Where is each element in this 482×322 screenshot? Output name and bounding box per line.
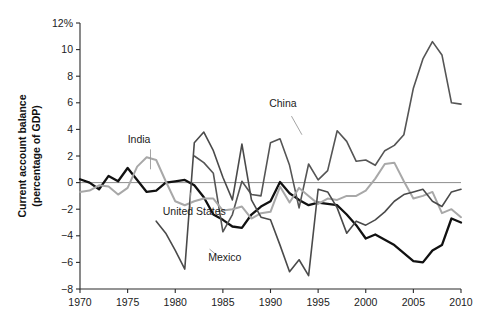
series-lines [80,42,461,276]
y-tick-label: 6 [67,96,73,108]
x-tick-label: 1995 [306,296,330,308]
x-tick-label: 2000 [354,296,378,308]
series-label-mexico: Mexico [208,251,241,263]
axis-spines [80,23,461,289]
y-tick-label: 8 [67,70,73,82]
y-axis-title-line1: Current account balance [16,94,28,217]
chart-figure: Current account balance (percentage of G… [0,0,482,322]
series-label-united-states: United States [163,205,226,217]
y-tick-label: −2 [61,203,73,215]
y-tick-label: 10 [61,43,73,55]
series-line-mexico [156,132,461,276]
current-account-balance-line-chart: Current account balance (percentage of G… [0,0,482,322]
x-tick-label: 2005 [402,296,426,308]
x-tick-label: 2010 [449,296,473,308]
y-tick-label: 2 [67,150,73,162]
x-tick-label: 1980 [164,296,188,308]
series-leader-china [291,116,301,135]
series-label-india: India [128,133,151,145]
x-tick-label: 1975 [116,296,140,308]
series-label-china: China [269,97,297,109]
x-tick-label: 1970 [68,296,92,308]
y-axis-ticks: −8−6−4−2024681012% [52,17,80,295]
y-tick-label: −4 [61,229,73,241]
y-tick-label: 12% [52,17,73,29]
y-tick-label: −6 [61,256,73,268]
x-axis-ticks: 197019751980198519901995200020052010 [68,289,473,308]
x-tick-label: 1985 [211,296,235,308]
y-axis-title-line2: (percentage of GDP) [30,105,42,207]
x-tick-label: 1990 [259,296,283,308]
y-tick-label: −8 [61,283,73,295]
y-tick-label: 4 [67,123,73,135]
series-line-india [80,157,461,218]
y-tick-label: 0 [67,176,73,188]
y-axis-title: Current account balance (percentage of G… [16,94,42,217]
